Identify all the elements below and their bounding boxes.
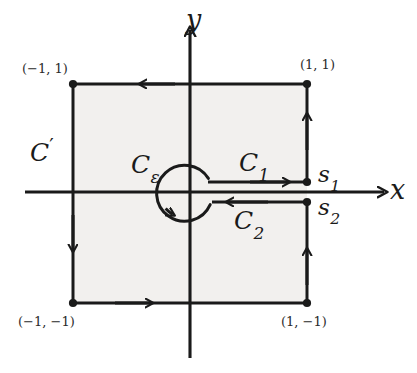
- keyhole-contour-figure: y x (−1, 1) (1, 1) (−1, −1) (1, −1) C′ C…: [0, 0, 417, 373]
- corner-label-bottom-left: (−1, −1): [18, 315, 75, 328]
- point-dot-s1: [303, 178, 311, 186]
- contour-label-c2: C2: [234, 208, 264, 238]
- contour-label-c-epsilon: Cε: [131, 152, 159, 182]
- corner-label-bottom-right: (1, −1): [281, 315, 327, 328]
- point-label-s2-sub: 2: [330, 209, 340, 228]
- corner-label-top-left: (−1, 1): [22, 62, 68, 75]
- contour-label-c1-sub: 1: [258, 165, 269, 185]
- contour-label-c-prime-base: C: [30, 138, 49, 167]
- x-axis-label: x: [390, 176, 405, 203]
- point-label-s1-base: s: [318, 161, 330, 187]
- contour-label-c1: C1: [239, 150, 269, 180]
- contour-label-c2-base: C: [234, 206, 253, 235]
- contour-label-c1-base: C: [239, 148, 258, 177]
- point-label-s2-base: s: [318, 194, 330, 220]
- contour-label-c-epsilon-sub: ε: [150, 167, 159, 187]
- contour-label-c2-sub: 2: [253, 223, 264, 243]
- point-label-s1-sub: 1: [330, 176, 340, 195]
- point-label-s1: s1: [318, 163, 340, 190]
- contour-label-c-epsilon-base: C: [131, 150, 150, 179]
- contour-label-c-prime-mark: ′: [49, 134, 54, 158]
- vertex-dot-top-right: [303, 80, 311, 88]
- contour-label-c-prime: C′: [30, 140, 54, 165]
- corner-label-top-right: (1, 1): [300, 58, 335, 71]
- y-axis-label: y: [186, 6, 201, 33]
- vertex-dot-bottom-right: [303, 299, 311, 307]
- vertex-dot-bottom-left: [69, 299, 77, 307]
- point-label-s2: s2: [318, 196, 340, 223]
- point-dot-s2: [303, 198, 311, 206]
- vertex-dot-top-left: [69, 80, 77, 88]
